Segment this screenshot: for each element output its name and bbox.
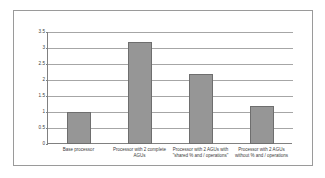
bar-slot [48,32,109,144]
bar[interactable] [67,112,91,144]
y-axis-tick-label: 0 [42,142,45,147]
y-axis-tick-label: 0.5 [39,126,45,131]
y-axis-tick-label: 3.5 [39,30,45,35]
bar-slot [170,32,231,144]
bar-slot [109,32,170,144]
x-axis-label: Processor with 2 AGUs without % and / op… [231,147,292,159]
x-axis-category-labels: Base processorProcessor with 2 complete … [48,147,292,159]
y-axis-tick-label: 2 [42,78,45,83]
bar[interactable] [128,42,152,144]
y-axis-tick-label: 2.5 [39,62,45,67]
y-axis-tick-label: 1.5 [39,94,45,99]
bar-slot [231,32,292,144]
x-axis-label: Base processor [48,147,109,159]
y-axis-tick-label: 1 [42,110,45,115]
bar[interactable] [189,74,213,144]
x-axis-label: Processor with 2 AGUs with "shared % and… [170,147,231,159]
y-axis-tickmark [46,144,48,145]
y-axis-tick-label: 3 [42,46,45,51]
bar[interactable] [250,106,274,144]
bar-series [48,32,292,144]
chart-frame: 00.511.522.533.5 Base processorProcessor… [13,10,313,166]
x-axis-label: Processor with 2 complete AGUs [109,147,170,159]
